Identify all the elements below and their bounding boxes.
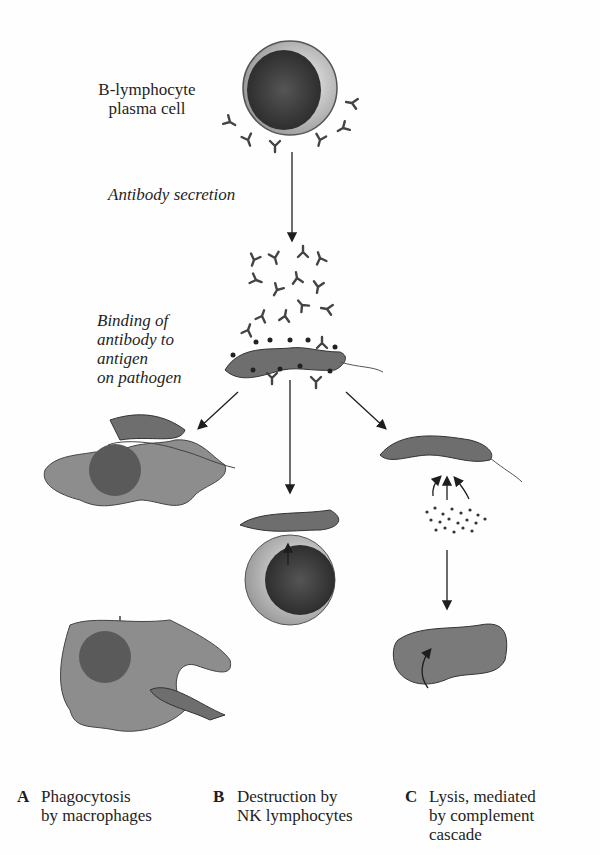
caption-a: A Phagocytosis by macrophages: [17, 787, 152, 825]
source-cell-label: B-lymphocyte plasma cell: [83, 80, 211, 118]
step-binding-line4: on pathogen: [97, 368, 182, 387]
caption-c-line3: cascade: [429, 825, 536, 844]
arrow-to-c: [346, 392, 385, 428]
caption-b: B Destruction by NK lymphocytes: [213, 787, 353, 825]
antibody-pathway-illustration: [0, 0, 600, 855]
caption-a-line1: Phagocytosis: [41, 787, 152, 806]
complement-lysis: [380, 436, 522, 688]
caption-a-letter: A: [17, 787, 31, 825]
caption-c-line1: Lysis, mediated: [429, 787, 536, 806]
complement-proteins: [425, 506, 486, 533]
step-binding-label: Binding of antibody to antigen on pathog…: [97, 311, 182, 387]
source-cell-label-line2: plasma cell: [83, 99, 211, 118]
nk-lymphocyte: [240, 510, 339, 625]
caption-c: C Lysis, mediated by complement cascade: [405, 787, 536, 844]
macrophage-phagocytosis: [44, 415, 235, 732]
step-binding-line3: antigen: [97, 349, 182, 368]
pathogen: [225, 323, 383, 388]
step-binding-line1: Binding of: [97, 311, 182, 330]
arrow-to-a: [199, 392, 238, 428]
source-cell-label-line1: B-lymphocyte: [83, 80, 211, 99]
caption-a-line2: by macrophages: [41, 806, 152, 825]
step-antibody-secretion: Antibody secretion: [108, 185, 235, 204]
caption-a-text: Phagocytosis by macrophages: [41, 787, 152, 825]
caption-c-letter: C: [405, 787, 419, 844]
caption-b-text: Destruction by NK lymphocytes: [237, 787, 353, 825]
step-binding-line2: antibody to: [97, 330, 182, 349]
free-antibodies: [247, 246, 333, 322]
plasma-cell: [223, 41, 358, 152]
caption-b-line1: Destruction by: [237, 787, 353, 806]
caption-b-letter: B: [213, 787, 227, 825]
caption-b-line2: NK lymphocytes: [237, 806, 353, 825]
caption-c-text: Lysis, mediated by complement cascade: [429, 787, 536, 844]
caption-c-line2: by complement: [429, 806, 536, 825]
